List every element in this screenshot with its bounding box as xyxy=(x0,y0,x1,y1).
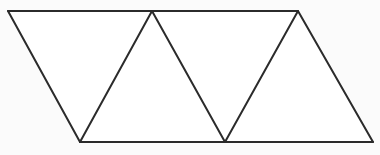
triangle-strip-figure xyxy=(0,0,380,155)
figure-canvas xyxy=(0,0,380,155)
